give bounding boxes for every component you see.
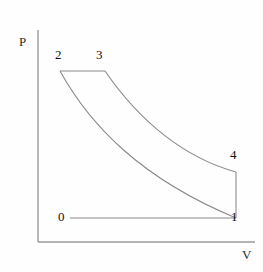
segment-3-4-adiabat — [105, 71, 236, 172]
point-label-1: 1 — [231, 210, 238, 223]
y-axis-label: P — [19, 35, 26, 48]
point-label-0: 0 — [58, 210, 65, 223]
pv-diagram-figure: P V 0 1 2 3 4 — [0, 0, 263, 272]
point-label-4: 4 — [230, 148, 237, 161]
x-axis-label: V — [242, 248, 251, 261]
segment-1-2-adiabat — [60, 71, 236, 218]
pv-diagram-canvas — [0, 0, 263, 272]
point-label-3: 3 — [96, 48, 103, 61]
point-label-2: 2 — [55, 48, 62, 61]
